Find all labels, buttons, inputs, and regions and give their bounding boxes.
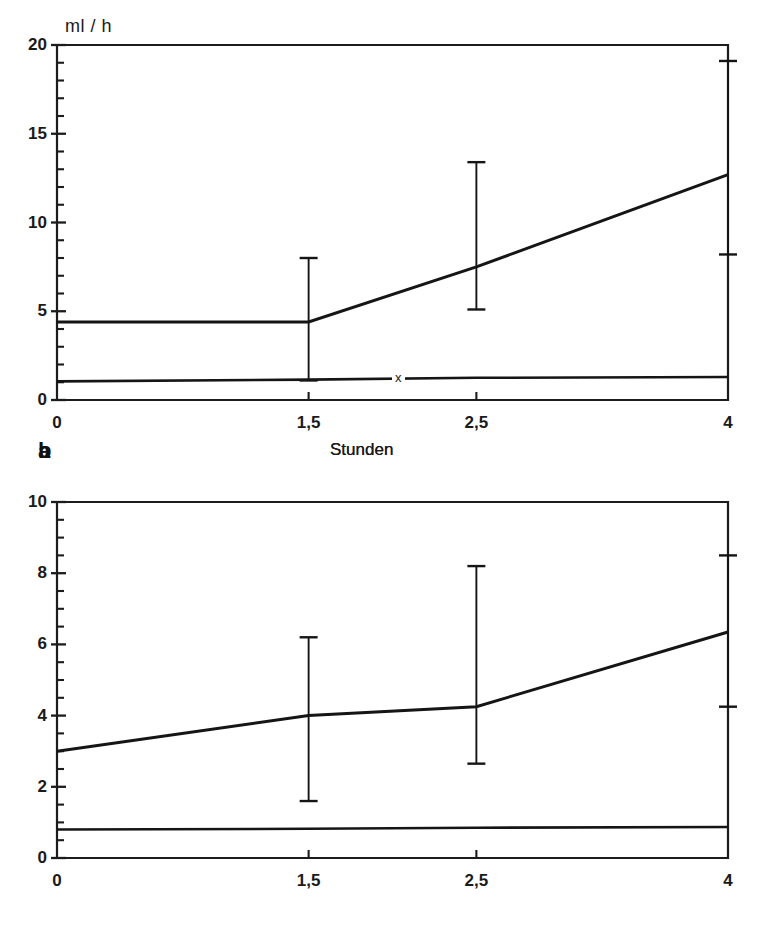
y-axis-tick-label: 4 <box>9 707 47 724</box>
series-marker-x-b: x <box>392 371 405 384</box>
y-axis-tick-label: 15 <box>9 125 47 142</box>
y-axis-tick-label: 5 <box>9 302 47 319</box>
x-axis-tick-label: 0 <box>32 872 82 889</box>
figure-two-panel-line-charts: ml / h Stunden a x 0510152001,52,54 Stun… <box>0 0 772 939</box>
y-axis-tick-label: 0 <box>9 391 47 408</box>
y-axis-tick-label: 20 <box>9 36 47 53</box>
x-axis-tick-label: 0 <box>32 414 82 431</box>
x-axis-tick-label: 1,5 <box>284 414 334 431</box>
x-axis-tick-label: 1,5 <box>284 872 334 889</box>
x-axis-tick-label: 2,5 <box>451 872 501 889</box>
panel-label-b: b <box>38 440 51 462</box>
y-axis-tick-label: 10 <box>9 214 47 231</box>
y-axis-tick-label: 0 <box>9 849 47 866</box>
y-axis-tick-label: 8 <box>9 564 47 581</box>
x-axis-tick-label: 4 <box>703 414 753 431</box>
x-axis-tick-label: 2,5 <box>451 414 501 431</box>
chart-panel-a: ml / h Stunden a x 0510152001,52,54 <box>0 0 772 470</box>
chart-panel-b: Stunden b x 024681001,52,54 <box>0 470 772 939</box>
plot-area-b <box>0 470 772 939</box>
x-axis-title-b: Stunden <box>330 441 393 458</box>
y-axis-tick-label: 10 <box>9 493 47 510</box>
y-axis-tick-label: 2 <box>9 778 47 795</box>
y-axis-tick-label: 6 <box>9 635 47 652</box>
y-axis-unit-label-a: ml / h <box>65 17 112 35</box>
plot-area-a <box>0 0 772 470</box>
x-axis-tick-label: 4 <box>703 872 753 889</box>
